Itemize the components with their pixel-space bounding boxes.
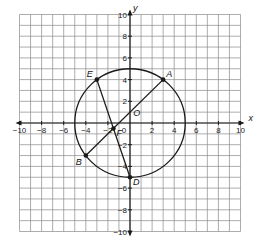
point-e <box>95 77 100 82</box>
x-tick-label: −10 <box>13 126 27 135</box>
x-tick-label: −8 <box>37 126 47 135</box>
point-f <box>111 126 116 131</box>
y-axis-label: y <box>132 3 138 13</box>
x-tick-label: −4 <box>81 126 91 135</box>
point-b <box>84 153 89 158</box>
point-d <box>128 175 133 180</box>
point-label-d: D <box>133 177 140 187</box>
y-tick-label: 4 <box>123 76 128 85</box>
point-label-e: E <box>87 69 94 79</box>
point-label-a: A <box>165 69 172 79</box>
axes: xy <box>16 3 254 237</box>
coordinate-plane: xy −10−8−6−4−2246810108642−2−4−6−8−100 O… <box>0 0 258 249</box>
x-tick-label: 6 <box>194 126 199 135</box>
y-tick-label: 8 <box>123 32 128 41</box>
x-arrow-left-icon <box>16 121 22 126</box>
y-tick-label: −10 <box>113 228 127 237</box>
point-label-b: B <box>76 157 82 167</box>
x-arrow-right-icon <box>239 121 245 126</box>
x-tick-label: 8 <box>216 126 221 135</box>
y-tick-label: −6 <box>118 184 128 193</box>
y-tick-label: −8 <box>118 206 128 215</box>
y-tick-label: 2 <box>123 97 128 106</box>
point-label-f: F <box>116 128 122 138</box>
y-tick-label: 10 <box>118 11 127 20</box>
x-tick-label: −6 <box>59 126 69 135</box>
center-label: O <box>133 108 140 118</box>
point-a <box>161 77 166 82</box>
y-tick-label: 6 <box>123 54 128 63</box>
x-tick-label: 2 <box>150 126 155 135</box>
x-tick-label: 10 <box>236 126 245 135</box>
origin-tick-label: 0 <box>122 126 127 135</box>
x-axis-label: x <box>248 113 254 123</box>
x-tick-label: 4 <box>172 126 177 135</box>
